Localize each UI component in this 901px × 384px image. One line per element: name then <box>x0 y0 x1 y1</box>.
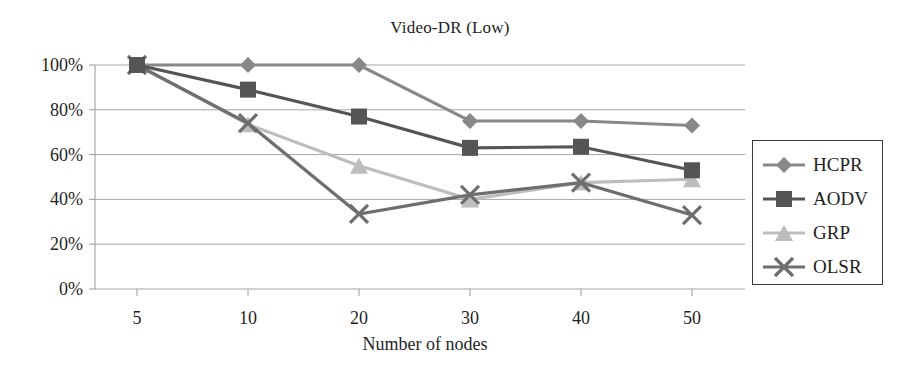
x-tick-label: 10 <box>218 309 278 327</box>
data-point-square <box>129 57 145 73</box>
series-line <box>137 65 692 215</box>
series-hcpr <box>129 57 700 133</box>
series-line <box>137 65 692 125</box>
data-point-square <box>573 139 589 155</box>
gridlines-group <box>95 65 745 289</box>
legend-label: AODV <box>813 188 868 210</box>
legend-swatch-x-icon <box>761 256 807 278</box>
y-tick-label: 100% <box>11 56 83 74</box>
legend-label: HCPR <box>813 154 863 176</box>
y-tick-label: 40% <box>11 190 83 208</box>
data-point-diamond <box>684 117 700 133</box>
x-tick-label: 20 <box>329 309 389 327</box>
x-tick-label: 50 <box>662 309 722 327</box>
x-tick-label: 30 <box>440 309 500 327</box>
legend-item-aodv[interactable]: AODV <box>753 181 884 217</box>
data-point-square <box>684 162 700 178</box>
data-point-square <box>776 191 792 207</box>
legend-item-hcpr[interactable]: HCPR <box>753 147 884 183</box>
data-point-square <box>462 140 478 156</box>
legend-swatch-triangle-icon <box>761 222 807 244</box>
legend-item-olsr[interactable]: OLSR <box>753 249 884 285</box>
data-point-diamond <box>351 57 367 73</box>
legend-label: OLSR <box>813 256 862 278</box>
legend-swatch-square-icon <box>761 188 807 210</box>
data-point-diamond <box>776 157 792 173</box>
y-tick-label: 60% <box>11 146 83 164</box>
x-tick-label: 5 <box>107 309 167 327</box>
legend-item-grp[interactable]: GRP <box>753 215 884 251</box>
data-point-diamond <box>240 57 256 73</box>
series-aodv <box>129 57 700 178</box>
series-group <box>128 56 701 224</box>
data-point-triangle <box>350 158 368 174</box>
data-point-x <box>683 206 701 224</box>
y-tick-label: 20% <box>11 235 83 253</box>
data-point-square <box>351 109 367 125</box>
data-point-diamond <box>573 113 589 129</box>
y-tick-label: 0% <box>11 280 83 298</box>
legend-swatch-diamond-icon <box>761 154 807 176</box>
y-tick-label: 80% <box>11 101 83 119</box>
x-axis-title: Number of nodes <box>265 334 585 355</box>
chart-container: Video-DR (Low) 0%20%40%60%80%100% 510203… <box>0 0 901 384</box>
legend-label: GRP <box>813 222 850 244</box>
data-point-square <box>240 82 256 98</box>
x-tick-label: 40 <box>551 309 611 327</box>
legend: HCPRAODVGRPOLSR <box>752 140 883 285</box>
data-point-diamond <box>462 113 478 129</box>
